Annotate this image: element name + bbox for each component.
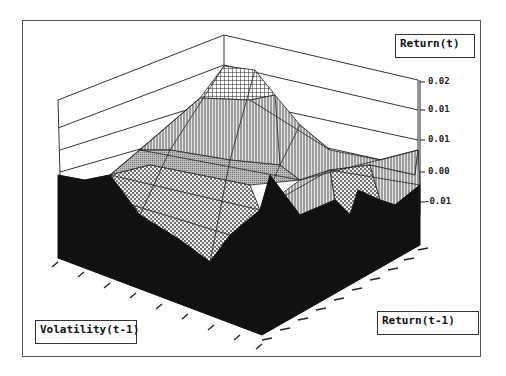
z-axis bbox=[420, 80, 425, 215]
z-tick-3: 0.00 bbox=[428, 166, 450, 176]
z-tick-0: 0.02 bbox=[428, 76, 450, 86]
z-tick-4: -0.01 bbox=[424, 196, 451, 206]
z-tick-2: 0.01 bbox=[428, 134, 450, 144]
x-axis-label: Volatility(t-1) bbox=[35, 320, 137, 344]
z-tick-1: 0.01 bbox=[428, 104, 450, 114]
z-axis-label: Return(t) bbox=[395, 34, 475, 58]
y-axis-label: Return(t-1) bbox=[377, 311, 479, 335]
